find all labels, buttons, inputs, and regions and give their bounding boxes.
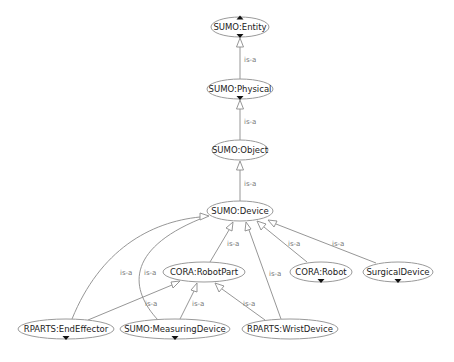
edge-label: is-a — [244, 118, 256, 126]
edge-label: is-a — [227, 240, 239, 248]
edge-robot-device: is-a — [257, 221, 307, 262]
edge-device-object: is-a — [237, 161, 257, 201]
edge-physical-entity: is-a — [237, 38, 257, 79]
node-label: RPARTS:EndEffector — [24, 324, 109, 334]
arrowhead-icon — [237, 161, 244, 170]
edge-label: is-a — [288, 240, 300, 248]
edge-label: is-a — [332, 240, 344, 248]
node-label: SUMO:Device — [211, 206, 268, 216]
arrowhead-icon — [171, 281, 180, 288]
arrowhead-icon — [191, 283, 197, 292]
edge-wrist-robotpart: is-a — [215, 283, 265, 320]
node-surgical-device[interactable]: SurgicalDevice — [363, 262, 433, 283]
edge-label: is-a — [144, 269, 156, 277]
arrowhead-icon — [200, 213, 209, 220]
arrowhead-icon — [257, 221, 266, 230]
node-label: SUMO:Physical — [209, 84, 272, 94]
node-sumo-entity[interactable]: SUMO:Entity — [211, 16, 269, 39]
node-sumo-measuringdevice[interactable]: SUMO:MeasuringDevice — [120, 319, 230, 340]
node-label: SUMO:Object — [212, 145, 269, 155]
edge-label: is-a — [192, 300, 204, 308]
edge-endeffector-robotpart: is-a — [88, 281, 180, 320]
edge-label: is-a — [269, 270, 281, 278]
node-label: CORA:RobotPart — [170, 267, 239, 277]
edge-label: is-a — [120, 269, 132, 277]
arrowhead-icon — [237, 38, 244, 47]
node-label: SUMO:MeasuringDevice — [124, 324, 226, 334]
ontology-graph: is-a is-a is-a is-a is-a — [0, 0, 454, 362]
edge-robotpart-device: is-a — [210, 222, 239, 262]
arrowhead-icon — [268, 220, 277, 227]
edge-label: is-a — [145, 300, 157, 308]
arrowhead-icon — [226, 222, 233, 231]
edge-surgical-device: is-a — [268, 220, 376, 263]
node-cora-robot[interactable]: CORA:Robot — [290, 262, 352, 283]
arrowhead-icon — [215, 283, 224, 292]
node-sumo-device[interactable]: SUMO:Device — [207, 201, 273, 221]
edge-measuring-robotpart: is-a — [180, 283, 204, 319]
node-rparts-endeffector[interactable]: RPARTS:EndEffector — [18, 319, 114, 340]
node-label: SUMO:Entity — [213, 22, 266, 32]
node-rparts-wristdevice[interactable]: RPARTS:WristDevice — [242, 319, 338, 339]
edge-label: is-a — [244, 180, 256, 188]
arrowhead-icon — [245, 222, 251, 231]
node-sumo-object[interactable]: SUMO:Object — [212, 140, 269, 160]
edge-object-physical: is-a — [237, 100, 257, 140]
node-label: SurgicalDevice — [366, 267, 429, 277]
node-sumo-physical[interactable]: SUMO:Physical — [207, 79, 273, 100]
edge-label: is-a — [243, 300, 255, 308]
node-label: RPARTS:WristDevice — [247, 324, 333, 334]
node-label: CORA:Robot — [295, 267, 347, 277]
arrowhead-icon — [237, 100, 244, 109]
node-cora-robotpart[interactable]: CORA:RobotPart — [163, 262, 245, 282]
edge-label: is-a — [244, 56, 256, 64]
